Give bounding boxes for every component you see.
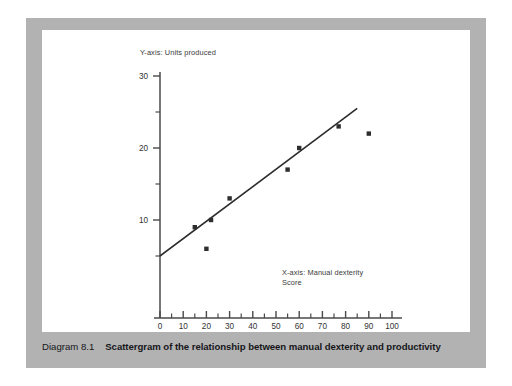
data-point-marker[interactable] xyxy=(285,167,289,171)
caption-number: Diagram 8.1 xyxy=(42,340,94,354)
y-tick-label: 20 xyxy=(139,144,149,153)
x-tick-label: 40 xyxy=(248,322,258,331)
data-point-marker[interactable] xyxy=(209,218,213,222)
scatter-plot: 1020300102030405060708090100 xyxy=(42,30,470,332)
x-tick-label: 70 xyxy=(318,322,328,331)
data-point[interactable] xyxy=(297,146,301,150)
x-tick-label: 60 xyxy=(295,322,305,331)
data-point-marker[interactable] xyxy=(227,196,231,200)
x-tick-label: 100 xyxy=(385,322,399,331)
x-tick-label: 20 xyxy=(202,322,212,331)
caption-text: Scattergram of the relationship between … xyxy=(105,340,440,354)
x-tick-label: 10 xyxy=(179,322,189,331)
data-point-marker[interactable] xyxy=(204,247,208,251)
figure-frame: Y-axis: Units produced X-axis: Manual de… xyxy=(26,18,486,368)
data-point-marker[interactable] xyxy=(193,225,197,229)
x-tick-label: 30 xyxy=(225,322,235,331)
data-point[interactable] xyxy=(285,167,289,171)
y-tick-label: 30 xyxy=(139,72,149,81)
x-tick-label: 0 xyxy=(158,322,163,331)
trend-line xyxy=(160,108,357,256)
x-tick-label: 50 xyxy=(271,322,281,331)
data-point-marker[interactable] xyxy=(336,124,340,128)
data-point[interactable] xyxy=(336,124,340,128)
data-point[interactable] xyxy=(193,225,197,229)
x-tick-label: 90 xyxy=(364,322,374,331)
data-point-marker[interactable] xyxy=(367,131,371,135)
figure-caption: Diagram 8.1 Scattergram of the relations… xyxy=(42,340,466,354)
chart-panel: Y-axis: Units produced X-axis: Manual de… xyxy=(42,30,470,332)
data-point[interactable] xyxy=(367,131,371,135)
x-tick-label: 80 xyxy=(341,322,351,331)
data-point[interactable] xyxy=(204,247,208,251)
y-tick-label: 10 xyxy=(139,216,149,225)
data-point-marker[interactable] xyxy=(297,146,301,150)
data-point[interactable] xyxy=(227,196,231,200)
data-point[interactable] xyxy=(209,218,213,222)
